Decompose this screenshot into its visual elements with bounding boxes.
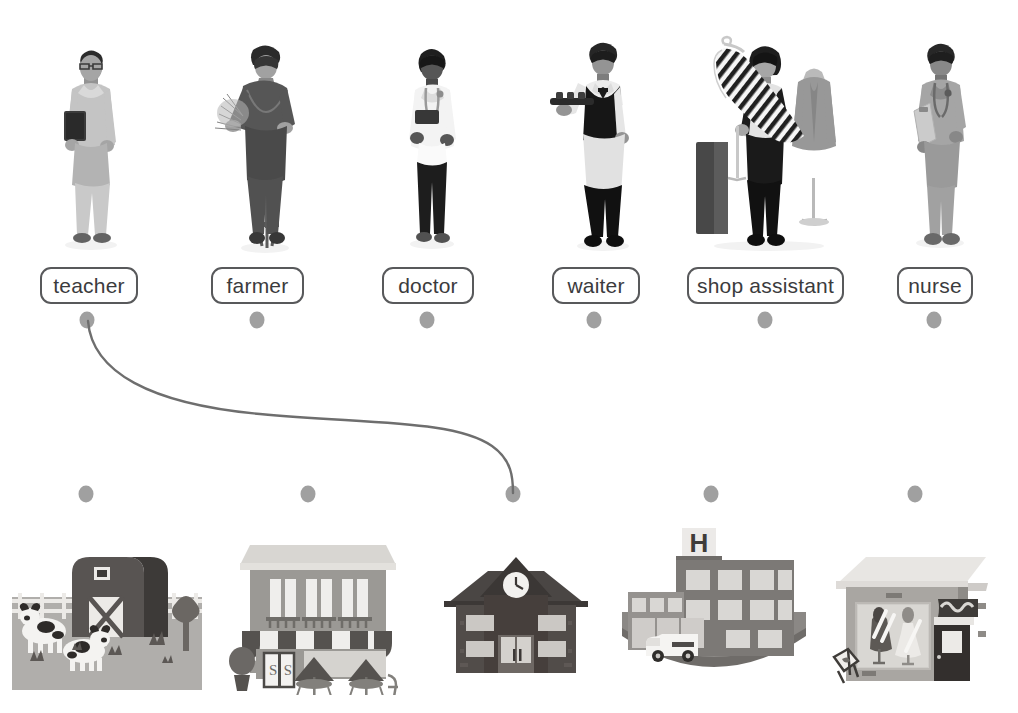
job-chip-waiter[interactable]: waiter <box>552 267 640 304</box>
job-label-farmer: farmer <box>227 275 289 296</box>
worksheet-canvas: teacher farmer doctor waiter shop assist… <box>0 0 1018 713</box>
photo-waiter <box>548 30 644 252</box>
place-art-clothes-shop <box>828 545 1008 690</box>
connection-teacher-to-school <box>88 321 513 493</box>
job-dot-waiter[interactable] <box>587 312 602 329</box>
job-dot-teacher[interactable] <box>80 312 95 329</box>
job-chip-shop-assistant[interactable]: shop assistant <box>687 267 844 304</box>
svg-text:S: S <box>284 662 292 678</box>
place-art-shop-cafe: S S <box>228 535 406 695</box>
photo-doctor <box>397 38 467 250</box>
place-dot-shop-cafe[interactable] <box>301 486 316 503</box>
job-chip-teacher[interactable]: teacher <box>40 267 138 304</box>
job-dot-doctor[interactable] <box>420 312 435 329</box>
hospital-sign-text: H <box>690 528 709 558</box>
job-label-nurse: nurse <box>908 275 962 296</box>
place-art-school <box>440 553 592 680</box>
job-chip-doctor[interactable]: doctor <box>382 267 474 304</box>
job-dot-shop-assistant[interactable] <box>758 312 773 329</box>
job-label-teacher: teacher <box>53 275 124 296</box>
job-chip-nurse[interactable]: nurse <box>897 267 973 304</box>
job-label-doctor: doctor <box>398 275 458 296</box>
job-dot-farmer[interactable] <box>250 312 265 329</box>
svg-text:S: S <box>269 662 277 678</box>
job-label-waiter: waiter <box>567 275 624 296</box>
place-dot-farm[interactable] <box>79 486 94 503</box>
place-dot-hospital[interactable] <box>704 486 719 503</box>
job-dot-nurse[interactable] <box>927 312 942 329</box>
photo-farmer <box>213 36 305 254</box>
place-dot-school[interactable] <box>506 486 521 503</box>
job-chip-farmer[interactable]: farmer <box>211 267 304 304</box>
photo-shop-assistant <box>684 30 850 252</box>
photo-teacher <box>52 33 130 251</box>
photo-nurse <box>902 33 978 249</box>
place-art-farm <box>12 545 202 690</box>
place-dot-clothes-shop[interactable] <box>908 486 923 503</box>
job-label-shop-assistant: shop assistant <box>697 275 834 296</box>
place-art-hospital: H <box>618 526 810 684</box>
